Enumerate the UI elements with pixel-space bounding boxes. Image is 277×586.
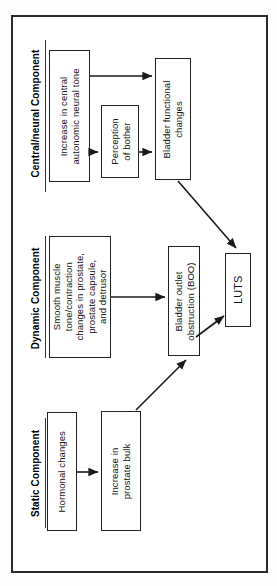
section-label-static: Static Component — [28, 412, 44, 534]
section-label-static-text: Static Component — [31, 429, 42, 516]
section-label-central-text: Central/neural Component — [31, 49, 42, 177]
section-bracket-static — [45, 418, 46, 528]
node-autonomic-tone-label: Increase in centralautonomic neural tone — [58, 68, 81, 164]
node-bladder-outlet-obstruction-label: Bladder outletobstruction (BOO) — [173, 262, 196, 340]
section-label-central: Central/neural Component — [28, 22, 44, 204]
node-hormonal-changes-label: Hormonal changes — [56, 431, 68, 512]
section-label-dynamic: Dynamic Component — [28, 228, 44, 368]
node-luts[interactable]: LUTS — [225, 253, 251, 327]
section-label-dynamic-text: Dynamic Component — [31, 247, 42, 349]
figure-canvas: Central/neural Component Dynamic Compone… — [0, 0, 277, 586]
node-smooth-muscle-changes[interactable]: Smooth muscletone/contractionchanges in … — [49, 236, 111, 358]
node-hormonal-changes[interactable]: Hormonal changes — [47, 412, 77, 531]
node-bladder-functional-changes[interactable]: Bladder functionalchanges — [155, 58, 191, 180]
node-perception-of-bother-label: Perceptionof bother — [109, 118, 132, 164]
node-perception-of-bother[interactable]: Perceptionof bother — [101, 105, 139, 178]
section-bracket-central — [45, 40, 46, 192]
node-bladder-outlet-obstruction[interactable]: Bladder outletobstruction (BOO) — [168, 246, 200, 356]
node-smooth-muscle-changes-label: Smooth muscletone/contractionchanges in … — [51, 253, 109, 341]
node-autonomic-tone[interactable]: Increase in centralautonomic neural tone — [49, 50, 90, 182]
node-increase-prostate-bulk[interactable]: Increase inprostate bulk — [101, 411, 141, 531]
node-luts-label: LUTS — [232, 276, 244, 305]
node-bladder-functional-changes-label: Bladder functionalchanges — [162, 80, 185, 158]
node-increase-prostate-bulk-label: Increase inprostate bulk — [110, 443, 133, 499]
section-bracket-dynamic — [45, 236, 46, 358]
